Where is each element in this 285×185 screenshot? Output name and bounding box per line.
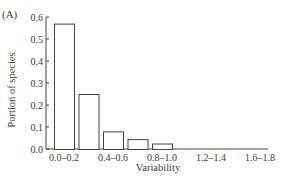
bar <box>153 144 173 150</box>
y-tick-label: 0.0 <box>31 144 44 155</box>
y-tick-label: 0.6 <box>31 12 44 23</box>
x-tick-label: 0.0–0.2 <box>49 152 79 163</box>
bar <box>79 95 99 150</box>
histogram-chart: 0.00.10.20.30.40.50.60.0–0.20.4–0.60.8–1… <box>0 0 285 185</box>
bar <box>104 132 124 150</box>
y-tick-label: 0.5 <box>31 34 44 45</box>
x-tick-label: 1.6–1.8 <box>245 152 275 163</box>
y-tick-label: 0.4 <box>31 56 44 67</box>
y-tick-label: 0.1 <box>31 122 44 133</box>
x-tick-label: 1.2–1.4 <box>196 152 226 163</box>
bar <box>55 24 75 149</box>
y-axis-label: Portion of species <box>6 52 17 127</box>
bar <box>128 140 148 150</box>
y-tick-label: 0.2 <box>31 100 44 111</box>
panel-label: (A) <box>2 8 17 20</box>
x-tick-label: 0.4–0.6 <box>98 152 128 163</box>
y-tick-label: 0.3 <box>31 78 44 89</box>
x-axis-label: Variability <box>136 162 181 173</box>
